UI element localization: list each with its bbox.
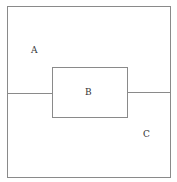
label-b: B [85, 88, 92, 97]
label-a: A [31, 46, 38, 55]
divider-line-left [7, 93, 53, 94]
label-c: C [143, 130, 150, 139]
divider-line-right [127, 92, 171, 93]
